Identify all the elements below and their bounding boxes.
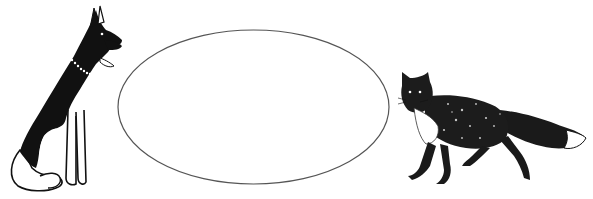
dog-illustration [11, 6, 122, 191]
illustration-svg [0, 0, 593, 199]
illustration-canvas [0, 0, 593, 199]
fox-illustration [398, 72, 586, 184]
empty-ellipse [118, 30, 389, 184]
